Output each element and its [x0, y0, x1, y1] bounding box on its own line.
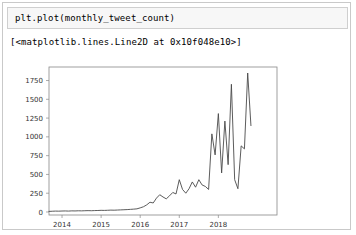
y-tick-label: 1000	[25, 133, 43, 141]
line-chart: 0250500750100012501500175020142015201620…	[7, 55, 348, 231]
output-repr-text: [<matplotlib.lines.Line2D at 0x10f048e10…	[10, 36, 242, 48]
y-tick-label: 0	[39, 209, 43, 217]
y-tick-label: 1750	[25, 77, 43, 85]
y-tick-label: 500	[30, 171, 43, 179]
data-series-line	[49, 73, 251, 211]
x-tick-label: 2016	[131, 221, 149, 229]
y-tick-label: 1500	[25, 96, 43, 104]
y-tick-label: 1250	[25, 115, 43, 123]
x-tick-label: 2015	[92, 221, 110, 229]
code-input-cell[interactable]: plt.plot(monthly_tweet_count)	[7, 7, 348, 29]
plot-spines	[49, 67, 277, 215]
y-tick-label: 750	[30, 152, 43, 160]
code-source-text: plt.plot(monthly_tweet_count)	[15, 12, 175, 24]
y-tick-label: 250	[30, 190, 43, 198]
x-tick-label: 2017	[170, 221, 188, 229]
notebook-output-frame: plt.plot(monthly_tweet_count) [<matplotl…	[2, 2, 351, 230]
matplotlib-figure: 0250500750100012501500175020142015201620…	[7, 55, 348, 231]
x-tick-label: 2018	[209, 221, 227, 229]
x-tick-label: 2014	[53, 221, 71, 229]
